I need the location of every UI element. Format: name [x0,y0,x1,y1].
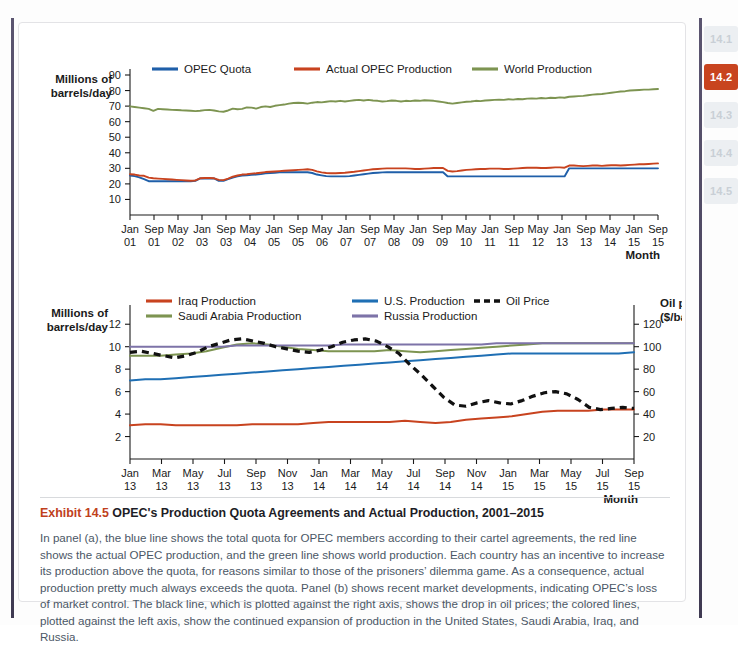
panel-b-series-russia-production [130,343,634,346]
panel-b-x-tick-month: Sep [435,467,455,479]
panel-a-x-tick-month: Jan [193,223,211,235]
panel-a-x-tick-year: 13 [556,236,568,248]
panel-b-y-tick-label-right: 20 [643,431,655,443]
panel-b-x-tick-month: Jan [310,467,328,479]
panel-a-x-tick-year: 01 [148,236,160,248]
panel-a-x-tick-year: 05 [292,236,304,248]
sidebar-item-14-2[interactable]: 14.2 [704,64,738,90]
panel-b-chart: 2468101220406080100120Millions ofbarrels… [22,267,682,517]
panel-b-x-tick-year: 13 [187,480,199,492]
panel-b-svg: 2468101220406080100120Millions ofbarrels… [22,267,682,517]
panel-b-x-tick-month: Mar [341,467,360,479]
panel-b-x-tick-year: 13 [250,480,262,492]
panel-a-x-tick-month: Sep [648,223,668,235]
sidebar-item-14-3[interactable]: 14.3 [704,102,738,128]
panel-a-y-tick-label: 20 [109,178,121,190]
panel-a-x-tick-month: Sep [216,223,236,235]
panel-b-x-tick-month: Jan [499,467,517,479]
panel-b-x-tick-year: 14 [439,480,451,492]
sidebar-item-14-5[interactable]: 14.5 [704,178,738,204]
panel-a-x-tick-year: 11 [508,236,519,248]
panel-a-x-tick-year: 13 [580,236,592,248]
panel-a-x-tick-year: 15 [652,236,664,248]
section-sidebar[interactable]: 14.114.214.314.414.5 [704,26,738,216]
panel-a-ylabel-line2: barrels/day [51,87,113,99]
panel-a-svg: 102030405060708090Millions ofbarrels/day… [22,27,682,262]
panel-a-x-tick-month: May [168,223,189,235]
panel-b-y-tick-label-left: 6 [115,386,121,398]
panel-a-x-tick-month: Sep [360,223,380,235]
panel-b-y-tick-label-left: 10 [109,341,121,353]
panel-a-x-tick-year: 07 [340,236,352,248]
panel-a-x-tick-year: 06 [316,236,328,248]
panel-a-x-tick-year: 09 [412,236,424,248]
panel-a-x-tick-month: Jan [625,223,643,235]
panel-b-legend-label: U.S. Production [384,295,465,307]
panel-a-x-tick-year: 10 [460,236,472,248]
panel-a-x-tick-month: Jan [409,223,427,235]
panel-a-x-tick-year: 01 [124,236,136,248]
panel-a-ylabel-line1: Millions of [55,73,112,85]
panel-b-legend-label: Iraq Production [178,295,256,307]
panel-a-x-tick-year: 03 [196,236,208,248]
panel-b-y-tick-label-right: 100 [643,341,661,353]
panel-b-ylabel-right-line2: ($/barrel) [660,311,682,323]
panel-b-y-tick-label-left: 12 [109,318,121,330]
panel-a-x-tick-month: Sep [432,223,452,235]
caption-divider [40,497,670,498]
panel-b-x-tick-year: 13 [124,480,136,492]
sidebar-item-14-4[interactable]: 14.4 [704,140,738,166]
panel-a-y-tick-label: 60 [109,116,121,128]
panel-b-x-tick-month: Nov [278,467,298,479]
caption-title-line: Exhibit 14.5 OPEC's Production Quota Agr… [40,505,670,521]
sidebar-item-14-1[interactable]: 14.1 [704,26,738,52]
panel-b-x-tick-year: 14 [344,480,356,492]
panel-b-y-tick-label-left: 4 [115,408,121,420]
panel-b-x-tick-year: 13 [218,480,230,492]
panel-b-x-tick-month: May [561,467,582,479]
panel-a-x-tick-month: May [240,223,261,235]
panel-a-x-tick-month: May [384,223,405,235]
panel-b-y-tick-label-left: 8 [115,363,121,375]
panel-b-series-iraq-production [130,410,634,426]
panel-b-series-u-s-production [130,352,634,380]
panel-a-x-tick-month: Sep [288,223,308,235]
exhibit-title: OPEC's Production Quota Agreements and A… [112,506,544,520]
panel-b-xlabel: Month [604,493,638,505]
panel-b-y-tick-label-right: 80 [643,363,655,375]
panel-b-y-tick-label-right: 120 [643,318,661,330]
panel-a-legend-label: World Production [504,63,592,75]
panel-a-legend-label: OPEC Quota [184,63,252,75]
panel-b-y-tick-label-left: 2 [115,431,121,443]
panel-a-x-tick-month: Jan [121,223,139,235]
panel-b-x-tick-month: Jul [217,467,231,479]
panel-a-x-tick-year: 08 [388,236,400,248]
page-rule-right [699,18,702,618]
panel-b-series-oil-price [130,339,634,410]
panel-b-x-tick-year: 13 [281,480,293,492]
panel-a-chart: 102030405060708090Millions ofbarrels/day… [22,27,682,262]
panel-a-x-tick-year: 03 [220,236,232,248]
panel-a-x-tick-month: Sep [504,223,524,235]
panel-a-x-tick-year: 05 [268,236,280,248]
panel-a-x-tick-year: 09 [436,236,448,248]
panel-a-x-tick-month: Jan [481,223,499,235]
panel-a-x-tick-month: Sep [144,223,164,235]
panel-b-ylabel-right-line1: Oil price [660,297,682,309]
panel-b-y-tick-label-right: 60 [643,386,655,398]
panel-a-x-tick-month: Jan [265,223,283,235]
panel-b-x-tick-year: 13 [155,480,167,492]
panel-b-x-tick-year: 15 [565,480,577,492]
panel-b-x-tick-month: Nov [467,467,487,479]
panel-b-x-tick-year: 15 [596,480,608,492]
panel-b-x-tick-month: May [372,467,393,479]
panel-b-x-tick-year: 14 [470,480,482,492]
panel-b-legend-label: Russia Production [384,310,477,322]
panel-b-x-tick-year: 14 [407,480,419,492]
panel-a-x-tick-year: 11 [484,236,495,248]
panel-a-x-tick-year: 07 [364,236,376,248]
panel-a-y-tick-label: 10 [109,193,121,205]
panel-a-x-tick-month: Jan [553,223,571,235]
panel-a-x-tick-month: Sep [576,223,596,235]
